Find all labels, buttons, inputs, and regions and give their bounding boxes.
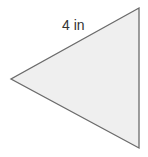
- side-length-label: 4 in: [62, 17, 85, 33]
